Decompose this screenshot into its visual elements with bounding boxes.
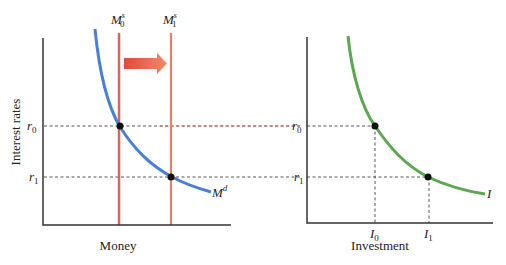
equilibrium-point-r0 — [117, 123, 124, 130]
r0-label-right: r0 — [292, 118, 302, 135]
y-axis-label: Interest rates — [8, 99, 23, 166]
investment-point-r0 — [372, 123, 379, 130]
ms0-label: Ms0 — [110, 11, 125, 29]
money-demand-curve — [95, 29, 211, 192]
investment-panel: r0 r1 I0 I1 I Investment — [292, 36, 493, 253]
ms1-label: Ms1 — [162, 11, 177, 29]
money-market-panel: Interest rates r0 r1 Ms0 Ms1 Md Money — [8, 11, 300, 253]
r1-label: r1 — [29, 169, 39, 186]
md-label: Md — [211, 183, 228, 200]
r1-label-right: r1 — [294, 169, 304, 186]
diagram: Interest rates r0 r1 Ms0 Ms1 Md Money r0… — [0, 0, 506, 265]
investment-point-r1 — [425, 174, 432, 181]
right-axes — [307, 37, 493, 223]
i1-label: I1 — [423, 226, 433, 243]
r0-label: r0 — [27, 118, 37, 135]
x-axis-label-investment: Investment — [351, 238, 409, 253]
x-axis-label-money: Money — [100, 238, 137, 253]
equilibrium-point-r1 — [168, 174, 175, 181]
investment-demand-curve — [348, 36, 485, 194]
investment-curve-label: I — [486, 186, 492, 201]
shift-arrow-icon — [124, 53, 167, 74]
